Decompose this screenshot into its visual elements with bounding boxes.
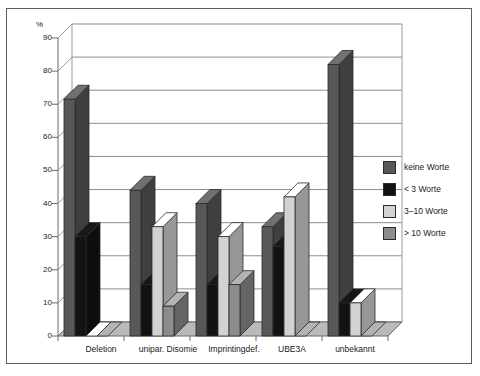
legend-label-ueber-10-worte: > 10 Worte (404, 228, 446, 238)
x-axis-label-unbekannt: unbekannt (308, 344, 402, 354)
figure: % 0102030405060708090 Deletion unipar. D… (0, 0, 480, 376)
bar-ube3a-s2 (284, 183, 309, 336)
legend-label-3-bis-10-worte: 3–10 Worte (404, 206, 448, 216)
legend-item-ueber-10-worte: > 10 Worte (383, 222, 469, 244)
legend-item-keine-worte: keine Worte (383, 156, 469, 178)
legend-item-3-bis-10-worte: 3–10 Worte (383, 200, 469, 222)
legend-swatch-keine-worte (383, 161, 396, 174)
legend-swatch-unter-3-worte (383, 183, 396, 196)
legend-label-unter-3-worte: < 3 Worte (404, 184, 441, 194)
plot-area: % 0102030405060708090 Deletion unipar. D… (0, 0, 480, 376)
legend: keine Worte < 3 Worte 3–10 Worte > 10 Wo… (383, 156, 469, 244)
legend-item-unter-3-worte: < 3 Worte (383, 178, 469, 200)
bar-imprintingdef--s3 (229, 271, 254, 336)
bar-deletion-s1 (75, 223, 100, 336)
legend-label-keine-worte: keine Worte (404, 162, 449, 172)
legend-swatch-3-bis-10-worte (383, 205, 396, 218)
legend-swatch-ueber-10-worte (383, 227, 396, 240)
